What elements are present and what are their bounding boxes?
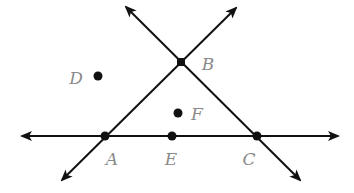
line-bc: [126, 7, 300, 180]
point-b-dot: [177, 58, 185, 66]
point-d-dot: [94, 72, 103, 81]
point-e-dot: [168, 132, 177, 141]
label-f: F: [191, 106, 203, 123]
label-a: A: [106, 151, 118, 168]
label-b: B: [202, 56, 215, 73]
point-f-dot: [174, 109, 183, 118]
line-ab: [62, 8, 236, 180]
label-e: E: [165, 151, 177, 168]
label-c: C: [242, 151, 255, 168]
geometry-diagram: D B F A E C: [0, 0, 354, 193]
label-d: D: [69, 70, 83, 87]
point-c-dot: [253, 132, 262, 141]
point-a-dot: [101, 132, 110, 141]
